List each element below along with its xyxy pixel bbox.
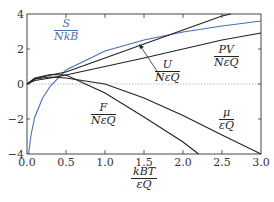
free-energy-label: FNεQ: [91, 102, 116, 127]
chemical-potential-label: μεQ: [219, 107, 234, 132]
svg-text:−4: −4: [8, 148, 24, 161]
svg-text:0: 0: [17, 78, 24, 91]
svg-text:3.0: 3.0: [252, 156, 270, 169]
svg-text:4: 4: [17, 8, 24, 21]
y-tick-labels: −4 −2 0 2 4: [8, 8, 24, 161]
svg-text:−2: −2: [8, 113, 24, 126]
svg-text:2: 2: [17, 43, 24, 56]
entropy-label: SNkB: [54, 18, 78, 43]
svg-text:1.0: 1.0: [96, 156, 114, 169]
svg-text:2.0: 2.0: [174, 156, 192, 169]
energy-label: UNεQ: [155, 59, 180, 84]
pv-label: PVNεQ: [214, 44, 239, 69]
svg-text:2.5: 2.5: [213, 156, 231, 169]
x-axis-label: kBTεQ: [131, 166, 157, 191]
svg-text:0.5: 0.5: [57, 156, 75, 169]
